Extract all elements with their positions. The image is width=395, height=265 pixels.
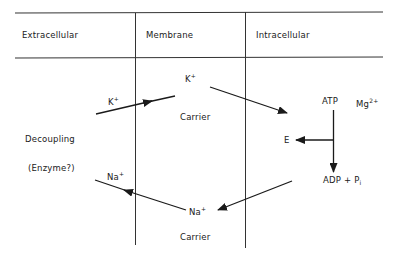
k-carrier-label: Carrier: [180, 113, 210, 122]
decoupling-label: Decoupling: [25, 135, 75, 144]
header-membrane: Membrane: [146, 31, 193, 40]
membrane-k-ion: K+: [185, 75, 196, 84]
na-carrier-label: Carrier: [180, 233, 210, 242]
k-carrier-to-atpase-arrow: [210, 87, 287, 113]
enzyme-e-label: E: [284, 136, 290, 145]
membrane-na-ion: Na+: [189, 208, 206, 217]
extracellular-na-ion: Na+: [107, 173, 124, 182]
mg-ion: Mg2+: [356, 100, 378, 109]
k-influx-arrow: [96, 101, 152, 114]
header-intracellular: Intracellular: [256, 31, 310, 40]
na-to-carrier-arrow: [218, 181, 292, 210]
table-top-rule: [15, 12, 383, 13]
extracellular-k-ion: K+: [108, 98, 119, 107]
table-header-rule: [15, 57, 383, 58]
adp-pi-label: ADP + Pi: [323, 176, 361, 185]
k-influx-arrow-tail: [150, 96, 175, 102]
na-efflux-arrow: [124, 190, 186, 210]
atp-label: ATP: [322, 97, 338, 106]
header-extracellular: Extracellular: [22, 31, 78, 40]
enzyme-label: (Enzyme?): [28, 164, 75, 173]
